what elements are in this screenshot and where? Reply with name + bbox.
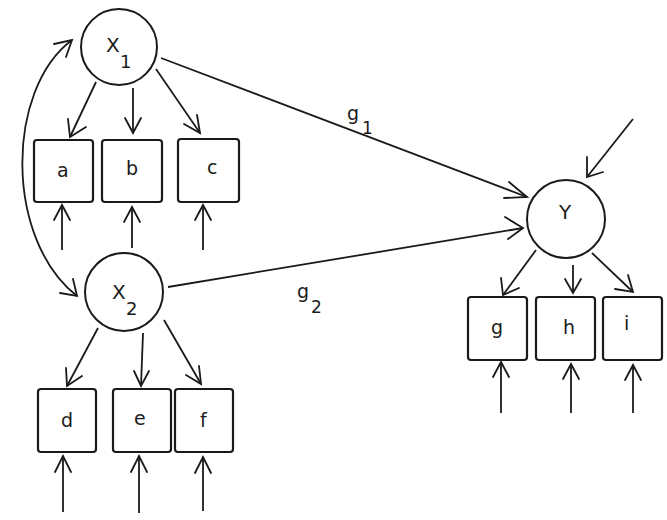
coef-g1-sub: 1 — [362, 118, 373, 138]
coef-g2-main: g — [297, 280, 309, 302]
indicator-box-c: c — [178, 139, 239, 202]
path-diagram: X 1 X 2 Y a b c d e f g — [0, 0, 667, 520]
indicator-box-g: g — [468, 297, 527, 360]
node-label-x1: X — [106, 33, 120, 57]
error-arrow-a — [54, 205, 70, 250]
indicator-box-d: d — [38, 389, 96, 452]
loading-x1-c — [156, 69, 200, 133]
indicator-box-e: e — [113, 389, 171, 452]
loading-x1-a — [68, 82, 96, 137]
loading-x2-d — [66, 328, 98, 386]
error-arrow-i — [625, 365, 641, 413]
node-label-y: Y — [558, 200, 572, 224]
box-label-i: i — [624, 312, 629, 334]
indicator-box-a: a — [34, 140, 93, 202]
coef-g2-sub: 2 — [311, 297, 322, 317]
node-subscript-x2: 2 — [126, 298, 137, 319]
error-arrow-f — [195, 457, 211, 511]
loading-y-i — [592, 253, 633, 292]
coefficient-label-g2: g 2 — [297, 280, 322, 317]
latent-node-y: Y — [527, 180, 605, 258]
error-arrow-e — [131, 456, 147, 513]
error-arrow-d — [55, 456, 71, 512]
node-subscript-x1: 1 — [120, 51, 131, 72]
error-arrow-g — [493, 362, 509, 413]
loading-y-h — [565, 265, 581, 293]
indicator-box-h: h — [536, 297, 595, 360]
box-label-c: c — [207, 156, 217, 178]
latent-node-x1: X 1 — [81, 9, 157, 85]
box-label-b: b — [126, 157, 138, 179]
loading-x2-f — [164, 320, 201, 384]
coef-g1-main: g — [347, 102, 359, 124]
error-arrow-b — [124, 207, 140, 248]
box-label-e: e — [134, 407, 146, 429]
node-label-x2: X — [112, 280, 126, 304]
loading-x2-e — [134, 333, 149, 386]
error-arrow-c — [195, 205, 211, 250]
path-x2-to-y — [168, 217, 523, 287]
indicator-box-f: f — [175, 389, 233, 452]
disturbance-arrow-y — [587, 119, 633, 177]
loading-x1-b — [125, 88, 141, 133]
box-label-g: g — [491, 316, 503, 338]
loading-y-g — [501, 250, 536, 295]
latent-node-x2: X 2 — [85, 253, 163, 331]
indicator-box-b: b — [102, 140, 162, 202]
error-arrow-h — [563, 364, 579, 413]
indicator-box-i: i — [603, 297, 662, 360]
box-label-h: h — [563, 316, 575, 338]
box-label-a: a — [57, 159, 69, 181]
box-label-d: d — [61, 409, 73, 431]
